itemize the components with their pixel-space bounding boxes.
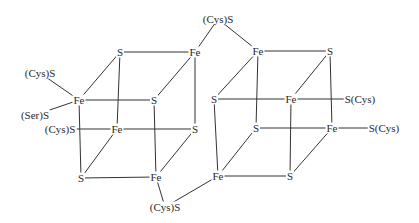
fe-s-cluster-diagram	[0, 0, 419, 223]
bond-line	[214, 51, 258, 99]
bond-line	[290, 99, 291, 176]
iron-atom-r-fe1: Fe	[252, 46, 265, 57]
ligand-r-lig1: S(Cys)	[344, 94, 377, 105]
iron-atom-r-fe3: Fe	[326, 123, 339, 134]
bond-line	[291, 51, 330, 99]
bond-line	[79, 100, 81, 178]
bridging-ligand-b-top: (Cys)S	[202, 14, 235, 25]
sulfur-atom-r-s4: S	[286, 171, 294, 182]
bond-line	[154, 52, 195, 100]
bond-line	[330, 51, 332, 128]
bond-line	[214, 99, 218, 176]
iron-atom-r-fe4: Fe	[212, 171, 225, 182]
bond-line	[154, 100, 156, 177]
ligand-l-lig3: (Cys)S	[44, 124, 77, 135]
bond-line	[290, 128, 332, 176]
bond-line	[218, 128, 256, 176]
bond-line	[81, 129, 117, 178]
iron-atom-l-fe2: Fe	[73, 95, 86, 106]
sulfur-atom-r-s3: S	[252, 123, 260, 134]
bond-line	[79, 52, 120, 100]
sulfur-atom-r-s1: S	[326, 46, 334, 57]
ligand-l-lig1: (Cys)S	[24, 68, 57, 79]
ligand-l-lig2: (Ser)S	[20, 110, 50, 121]
sulfur-atom-l-s3: S	[191, 124, 199, 135]
sulfur-atom-l-s1: S	[116, 47, 124, 58]
iron-atom-l-fe3: Fe	[111, 124, 124, 135]
bond-line	[117, 52, 120, 129]
sulfur-atom-l-s2: S	[150, 95, 158, 106]
ligand-r-lig2: S(Cys)	[368, 123, 401, 134]
bond-line	[256, 51, 258, 128]
bond-line	[156, 129, 195, 177]
iron-atom-l-fe1: Fe	[189, 47, 202, 58]
bridging-ligand-b-bot: (Cys)S	[149, 202, 182, 213]
bond-line	[81, 177, 156, 178]
sulfur-atom-r-s2: S	[210, 94, 218, 105]
iron-atom-r-fe2: Fe	[285, 94, 298, 105]
iron-atom-l-fe4: Fe	[150, 172, 163, 183]
sulfur-atom-l-s4: S	[77, 173, 85, 184]
